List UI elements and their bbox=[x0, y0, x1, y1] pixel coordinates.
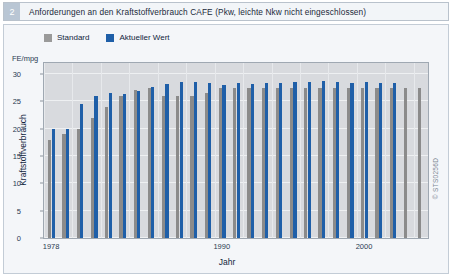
y-axis-tick-label: 15 bbox=[0, 151, 21, 160]
legend-item-aktueller-wert: Aktueller Wert bbox=[106, 33, 169, 42]
bar-aktueller-wert bbox=[194, 82, 197, 238]
x-axis-tick-label: 2000 bbox=[356, 242, 373, 251]
legend-label-aktueller-wert: Aktueller Wert bbox=[119, 33, 169, 42]
x-axis-title: Jahr bbox=[4, 257, 450, 267]
bar-aktueller-wert bbox=[80, 104, 83, 238]
y-axis-tick-label: 20 bbox=[0, 124, 21, 133]
gridline-vertical bbox=[357, 63, 358, 238]
bar-aktueller-wert bbox=[208, 83, 211, 238]
bar-aktueller-wert bbox=[137, 91, 140, 238]
plot-area bbox=[43, 62, 429, 239]
chart-legend: Standard Aktueller Wert bbox=[44, 33, 170, 42]
bar-aktueller-wert bbox=[393, 83, 396, 238]
legend-swatch-standard-icon bbox=[44, 34, 52, 42]
gridline-vertical bbox=[101, 63, 102, 238]
bar-aktueller-wert bbox=[165, 84, 168, 238]
x-axis-tick-label: 1978 bbox=[43, 242, 60, 251]
bar-standard bbox=[418, 88, 421, 238]
bar-aktueller-wert bbox=[94, 96, 97, 238]
y-axis-tick-label: 0 bbox=[0, 234, 21, 243]
bar-aktueller-wert bbox=[109, 93, 112, 238]
gridline-vertical bbox=[44, 63, 45, 238]
plot-inner bbox=[44, 63, 428, 238]
bar-aktueller-wert bbox=[379, 83, 382, 238]
gridline-vertical bbox=[215, 63, 216, 238]
bar-aktueller-wert bbox=[322, 81, 325, 238]
x-axis-tick-label: 1990 bbox=[213, 242, 230, 251]
legend-swatch-aktueller-wert-icon bbox=[106, 34, 114, 42]
y-axis-tick-label: 5 bbox=[0, 206, 21, 215]
figure-header: 2 Anforderungen an den Kraftstoffverbrau… bbox=[3, 2, 449, 21]
bar-aktueller-wert bbox=[222, 85, 225, 238]
figure-title: Anforderungen an den Kraftstoffverbrauch… bbox=[20, 3, 448, 20]
gridline-vertical bbox=[129, 63, 130, 238]
source-code-label: © STS0256D bbox=[432, 144, 439, 214]
bar-aktueller-wert bbox=[251, 84, 254, 238]
y-axis-tick-label: 30 bbox=[0, 69, 21, 78]
bar-aktueller-wert bbox=[52, 129, 55, 238]
legend-item-standard: Standard bbox=[44, 33, 89, 42]
gridline-vertical bbox=[300, 63, 301, 238]
chart-plate: Standard Aktueller Wert FE/mpg Kraftstof… bbox=[3, 24, 449, 274]
legend-label-standard: Standard bbox=[57, 33, 89, 42]
bar-standard bbox=[404, 88, 407, 238]
gridline-vertical bbox=[243, 63, 244, 238]
y-axis-unit-label: FE/mpg bbox=[12, 54, 38, 63]
bar-aktueller-wert bbox=[123, 94, 126, 238]
gridline-vertical bbox=[158, 63, 159, 238]
bar-aktueller-wert bbox=[308, 82, 311, 238]
gridline-vertical bbox=[186, 63, 187, 238]
bar-aktueller-wert bbox=[265, 83, 268, 238]
bar-aktueller-wert bbox=[180, 82, 183, 238]
chart-figure: 2 Anforderungen an den Kraftstoffverbrau… bbox=[0, 0, 452, 279]
bar-aktueller-wert bbox=[237, 83, 240, 238]
figure-number: 2 bbox=[4, 3, 20, 20]
bar-aktueller-wert bbox=[279, 83, 282, 238]
bar-aktueller-wert bbox=[293, 82, 296, 238]
bar-aktueller-wert bbox=[151, 87, 154, 238]
y-axis-tick-label: 10 bbox=[0, 179, 21, 188]
bar-aktueller-wert bbox=[365, 82, 368, 238]
bar-aktueller-wert bbox=[350, 83, 353, 238]
gridline-vertical bbox=[414, 63, 415, 238]
gridline-vertical bbox=[328, 63, 329, 238]
bar-aktueller-wert bbox=[336, 82, 339, 238]
bar-aktueller-wert bbox=[66, 129, 69, 238]
gridline-vertical bbox=[272, 63, 273, 238]
gridline-vertical bbox=[385, 63, 386, 238]
gridline-vertical bbox=[72, 63, 73, 238]
y-axis-tick-label: 25 bbox=[0, 97, 21, 106]
